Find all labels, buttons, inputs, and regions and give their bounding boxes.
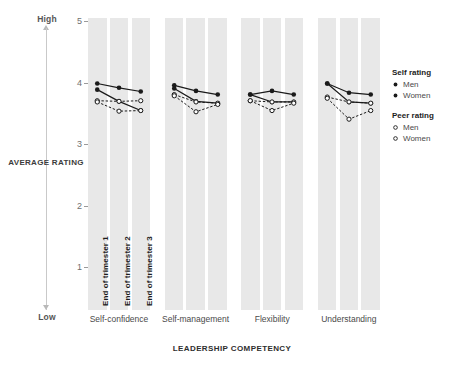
legend-item[interactable]: Men <box>392 80 462 89</box>
data-point-filled <box>368 92 373 97</box>
legend-item[interactable]: Women <box>392 134 462 143</box>
data-point-filled <box>95 81 100 86</box>
data-point-open <box>347 117 351 121</box>
chart-root: High Low AVERAGE RATING 54321 End of tri… <box>0 0 462 368</box>
x-axis-title: LEADERSHIP COMPETENCY <box>86 344 378 353</box>
axis-low-label: Low <box>24 312 70 322</box>
y-axis-tick: 5 <box>56 16 82 26</box>
data-point-filled <box>138 89 143 94</box>
y-axis-tick: 2 <box>56 201 82 211</box>
legend-item-label: Men <box>403 123 419 132</box>
plot-area: End of trimester 1End of trimester 2End … <box>86 18 378 310</box>
data-point-open <box>347 100 351 104</box>
legend-group-title: Self rating <box>392 68 462 77</box>
data-point-open <box>270 108 274 112</box>
data-point-open <box>139 99 143 103</box>
open-circle-icon <box>392 124 399 131</box>
chart-panel <box>318 18 380 310</box>
data-point-open <box>270 100 274 104</box>
legend-item-label: Women <box>403 134 430 143</box>
legend-item-label: Men <box>403 80 419 89</box>
data-point-filled <box>172 86 177 91</box>
data-point-filled <box>248 92 253 97</box>
data-point-filled <box>270 89 275 94</box>
data-point-open <box>248 99 252 103</box>
chart-panel: End of trimester 1End of trimester 2End … <box>88 18 150 310</box>
data-point-open <box>193 100 197 104</box>
legend-spacer <box>392 102 462 111</box>
axis-arrow-line <box>46 28 47 310</box>
data-point-open <box>368 101 372 105</box>
data-point-open <box>139 108 143 112</box>
data-point-open <box>215 102 219 106</box>
filled-circle-icon <box>392 92 399 99</box>
y-axis-title: AVERAGE RATING <box>8 158 84 168</box>
filled-circle-icon <box>392 81 399 88</box>
y-axis-tick: 4 <box>56 78 82 88</box>
data-point-open <box>292 101 296 105</box>
data-point-open <box>117 99 121 103</box>
legend-item[interactable]: Men <box>392 123 462 132</box>
data-point-open <box>117 109 121 113</box>
chart-panel <box>165 18 227 310</box>
axis-arrow-down-icon <box>43 305 49 310</box>
data-point-open <box>368 108 372 112</box>
chart-panel <box>241 18 303 310</box>
data-point-open <box>325 96 329 100</box>
data-point-filled <box>292 92 297 97</box>
data-point-filled <box>215 92 220 97</box>
y-axis-tick: 1 <box>56 262 82 272</box>
series-layer <box>88 18 150 310</box>
data-point-filled <box>325 81 330 86</box>
category-label: Understanding <box>302 314 396 324</box>
series-layer <box>241 18 303 310</box>
data-point-filled <box>193 89 198 94</box>
y-axis-tick: 3 <box>56 139 82 149</box>
data-point-open <box>193 110 197 114</box>
data-point-filled <box>346 90 351 95</box>
data-point-open <box>172 94 176 98</box>
legend-item-label: Women <box>403 91 430 100</box>
series-layer <box>318 18 380 310</box>
legend: Self ratingMenWomenPeer ratingMenWomen <box>392 68 462 145</box>
open-circle-icon <box>392 135 399 142</box>
data-point-open <box>95 100 99 104</box>
data-point-filled <box>117 86 122 91</box>
legend-item[interactable]: Women <box>392 91 462 100</box>
data-point-filled <box>95 87 100 92</box>
series-layer <box>165 18 227 310</box>
legend-group-title: Peer rating <box>392 111 462 120</box>
